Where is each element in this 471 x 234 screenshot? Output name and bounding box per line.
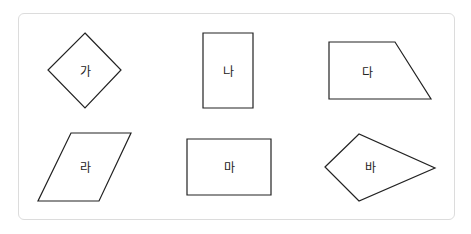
- shape-label: 가: [80, 65, 91, 79]
- shape-ra: 라: [38, 133, 131, 201]
- shape-label: 라: [80, 161, 91, 175]
- shape-label: 나: [223, 65, 234, 79]
- shape-label: 마: [224, 161, 235, 175]
- trapezoid-shape: [329, 42, 431, 99]
- shape-ba: 바: [325, 134, 435, 201]
- shape-na: 나: [203, 33, 253, 108]
- shape-da: 다: [329, 42, 431, 99]
- shape-label: 다: [362, 66, 373, 80]
- shape-label: 바: [365, 161, 376, 175]
- kite-shape: [325, 134, 435, 201]
- shapes-canvas: 가 나 다 라 마 바: [0, 0, 471, 234]
- shape-ma: 마: [187, 139, 271, 195]
- shape-ga: 가: [48, 33, 121, 108]
